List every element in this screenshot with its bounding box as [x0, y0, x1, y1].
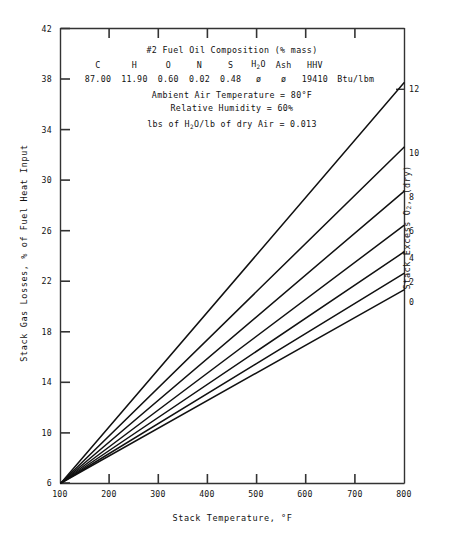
- y-tick-label-6: 6: [26, 478, 52, 488]
- y-tick-label-22: 22: [26, 276, 52, 286]
- humidity-ratio-pre: lbs of H: [147, 119, 190, 129]
- composition-header-n: N: [184, 58, 215, 73]
- composition-header-s: S: [215, 58, 246, 73]
- composition-value-h2o: ø: [246, 73, 271, 86]
- composition-value-row: 87.00 11.90 0.60 0.02 0.48 ø ø 19410 Btu…: [85, 73, 379, 86]
- y-tick-label-18: 18: [26, 327, 52, 337]
- composition-header-row: C H O N S H2O Ash HHV: [85, 58, 379, 73]
- composition-value-hhv: 19410: [297, 73, 333, 86]
- y2-axis-title-pre: Stack Excess O: [402, 209, 412, 289]
- composition-header-c: C: [85, 58, 116, 73]
- y-tick-label-10: 10: [26, 428, 52, 438]
- composition-value-n: 0.02: [184, 73, 215, 86]
- series-line-o2-6: [61, 225, 404, 483]
- y-tick-label-14: 14: [26, 377, 52, 387]
- y-tick-label-34: 34: [26, 125, 52, 135]
- composition-header-ash: Ash: [271, 58, 297, 73]
- series-line-o2-4: [61, 252, 404, 483]
- composition-header-hhv: HHV: [297, 58, 333, 73]
- y-tick-label-38: 38: [26, 74, 52, 84]
- composition-value-hhv-units: Btu/lbm: [333, 73, 379, 86]
- humidity-ratio-post: O/lb of dry Air = 0.013: [194, 119, 317, 129]
- series-line-o2-12: [61, 83, 404, 483]
- series-line-o2-0: [61, 290, 404, 483]
- composition-value-h: 11.90: [116, 73, 152, 86]
- x-axis-ticks: [109, 474, 355, 483]
- series-line-o2-10: [61, 147, 404, 483]
- y-tick-label-42: 42: [26, 24, 52, 34]
- composition-value-ash: ø: [271, 73, 297, 86]
- x-tick-label-200: 200: [94, 489, 124, 499]
- composition-title: #2 Fuel Oil Composition (% mass): [62, 44, 402, 57]
- y2-axis-title-post: , (dry): [402, 165, 412, 205]
- top-axis-ticks: [109, 29, 355, 38]
- composition-header-units-spacer: [333, 58, 379, 73]
- x-tick-label-700: 700: [340, 489, 370, 499]
- stack-gas-losses-chart: 42 38 34 30 26 22 18 14 10 6 100 200 300…: [0, 0, 471, 549]
- composition-value-s: 0.48: [215, 73, 246, 86]
- humidity-ratio-line: lbs of H2O/lb of dry Air = 0.013: [62, 118, 402, 133]
- h2o-header-post: O: [260, 59, 265, 69]
- x-tick-label-600: 600: [290, 489, 320, 499]
- y-tick-label-26: 26: [26, 226, 52, 236]
- composition-value-c: 87.00: [85, 73, 116, 86]
- y2-axis-title: Stack Excess O2, (dry): [402, 117, 413, 337]
- x-tick-label-800: 800: [389, 489, 419, 499]
- x-tick-label-400: 400: [192, 489, 222, 499]
- composition-header-o: O: [153, 58, 184, 73]
- y-axis-title: Stack Gas Losses, % of Fuel Heat Input: [19, 93, 29, 413]
- x-axis-title: Stack Temperature, °F: [60, 513, 405, 523]
- composition-header-h: H: [116, 58, 152, 73]
- composition-value-o: 0.60: [153, 73, 184, 86]
- x-tick-label-500: 500: [241, 489, 271, 499]
- series-line-o2-2: [61, 273, 404, 483]
- relative-humidity-line: Relative Humidity = 60%: [62, 102, 402, 115]
- data-series-group: [61, 83, 404, 483]
- x-tick-label-100: 100: [45, 489, 75, 499]
- x-tick-label-300: 300: [143, 489, 173, 499]
- y2-tick-label-12: 12: [409, 84, 431, 94]
- fuel-composition-table: C H O N S H2O Ash HHV 87.00 11.90 0.60 0…: [85, 58, 379, 86]
- y-tick-label-30: 30: [26, 175, 52, 185]
- y2-axis-title-sub: 2: [405, 205, 412, 209]
- composition-header-h2o: H2O: [246, 58, 271, 73]
- series-line-o2-8: [61, 191, 404, 483]
- chart-annotation-block: #2 Fuel Oil Composition (% mass) C H O N…: [62, 44, 402, 133]
- ambient-air-temperature-line: Ambient Air Temperature = 80°F: [62, 89, 402, 102]
